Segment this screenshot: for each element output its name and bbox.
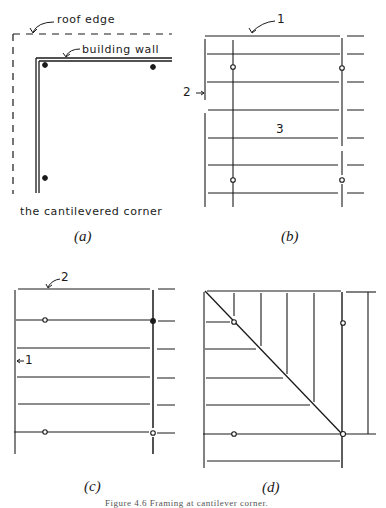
column-dot bbox=[43, 176, 48, 181]
roof-edge-label: roof edge bbox=[57, 13, 115, 26]
column-circle bbox=[340, 178, 345, 183]
figure-caption: Figure 4.6 Framing at cantilever corner. bbox=[105, 498, 268, 508]
building-wall-label: building wall bbox=[82, 43, 159, 56]
column-dot bbox=[151, 319, 156, 324]
column-circle bbox=[43, 430, 47, 434]
column-dot bbox=[151, 65, 156, 70]
joists bbox=[207, 54, 340, 193]
column-circle bbox=[341, 321, 346, 326]
callout-1: 1 bbox=[277, 12, 285, 26]
building-wall-inner bbox=[39, 61, 172, 193]
column-circle bbox=[151, 431, 156, 436]
callout-2: 2 bbox=[61, 270, 69, 284]
figure: roof edge building wall the cantilevered… bbox=[0, 0, 386, 508]
joists bbox=[14, 320, 150, 432]
framing-diagram bbox=[0, 0, 386, 508]
diagonal-beam bbox=[205, 291, 342, 434]
joist-stubs bbox=[347, 36, 364, 193]
callout-3: 3 bbox=[276, 122, 284, 136]
column-circle bbox=[231, 178, 236, 183]
panel-c-drawing bbox=[14, 279, 175, 454]
callout-arrow bbox=[48, 279, 60, 287]
column-dot bbox=[43, 63, 48, 68]
horizontal-joists bbox=[205, 322, 310, 405]
callout-1: 1 bbox=[25, 353, 33, 367]
callout-2: 2 bbox=[183, 85, 191, 99]
panel-label-b: (b) bbox=[281, 228, 299, 245]
vertical-joists bbox=[234, 293, 314, 402]
building-wall-outer bbox=[36, 58, 172, 193]
panel-d-drawing bbox=[203, 291, 376, 468]
panel-a-title: the cantilevered corner bbox=[20, 205, 162, 218]
column-circle bbox=[232, 432, 237, 437]
column-circle bbox=[340, 66, 345, 71]
column-circle bbox=[231, 65, 236, 70]
panel-label-d: (d) bbox=[262, 479, 280, 496]
panel-label-c: (c) bbox=[84, 478, 101, 495]
column-circle bbox=[232, 320, 237, 325]
panel-label-a: (a) bbox=[74, 228, 92, 245]
panel-b-drawing bbox=[196, 21, 364, 207]
joist-stubs bbox=[157, 289, 175, 433]
column-circle bbox=[43, 318, 47, 322]
column-circle bbox=[341, 432, 346, 437]
